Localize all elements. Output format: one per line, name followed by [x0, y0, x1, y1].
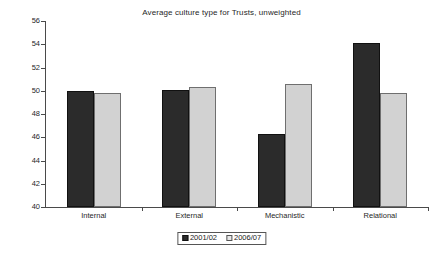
bar-internal-2001-02: [67, 91, 94, 207]
y-axis-tick-label: 42: [6, 179, 40, 188]
y-axis-tick: [41, 161, 46, 162]
y-axis-tick: [41, 44, 46, 45]
y-axis-tick-label: 48: [6, 109, 40, 118]
y-axis-tick-label: 40: [6, 202, 40, 211]
legend-label-1: 2006/07: [234, 234, 261, 242]
x-axis-category-label: Mechanistic: [235, 211, 335, 220]
bar-mechanistic-2001-02: [258, 134, 285, 207]
bar-relational-2001-02: [353, 43, 380, 207]
bar-relational-2006-07: [380, 93, 407, 207]
x-axis-category-label: Internal: [44, 211, 144, 220]
x-axis-tick: [428, 207, 429, 211]
y-axis-tick-label: 56: [6, 16, 40, 25]
bar-external-2006-07: [189, 87, 216, 207]
bar-external-2001-02: [162, 90, 189, 207]
light-square-swatch-icon: [226, 235, 232, 241]
bar-chart: Average culture type for Trusts, unweigh…: [0, 0, 443, 261]
x-axis-category-label: Relational: [330, 211, 430, 220]
chart-legend: 2001/02 2006/07: [177, 232, 266, 245]
y-axis-tick-label: 52: [6, 63, 40, 72]
y-axis-tick: [41, 184, 46, 185]
y-axis-tick: [41, 137, 46, 138]
legend-label-0: 2001/02: [190, 234, 217, 242]
y-axis-tick: [41, 21, 46, 22]
bar-internal-2006-07: [94, 93, 121, 207]
chart-title: Average culture type for Trusts, unweigh…: [0, 8, 443, 17]
y-axis-tick: [41, 114, 46, 115]
bar-mechanistic-2006-07: [285, 84, 312, 207]
dark-square-swatch-icon: [182, 235, 188, 241]
y-axis-tick: [41, 68, 46, 69]
legend-item-1: 2006/07: [226, 234, 261, 242]
y-axis-tick-label: 46: [6, 132, 40, 141]
y-axis-tick-label: 54: [6, 39, 40, 48]
plot-area: [46, 21, 428, 207]
y-axis-tick: [41, 91, 46, 92]
y-axis-tick: [41, 207, 46, 208]
y-axis-tick-label: 44: [6, 156, 40, 165]
y-axis-tick-labels: 565452504846444240: [0, 0, 40, 261]
y-axis-tick-label: 50: [6, 86, 40, 95]
x-axis-category-label: External: [139, 211, 239, 220]
legend-item-0: 2001/02: [182, 234, 217, 242]
